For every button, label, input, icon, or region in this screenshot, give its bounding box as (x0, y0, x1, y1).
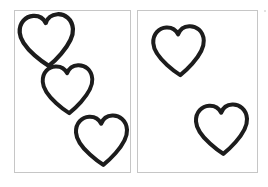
heart-outline (19, 13, 76, 68)
figure-canvas (0, 0, 268, 187)
heart-outline (42, 65, 94, 115)
heart-outline (195, 104, 249, 155)
heart-outline (75, 115, 129, 166)
edge-speck (264, 10, 266, 12)
heart-outline (152, 26, 205, 77)
heart-middle (38, 62, 99, 118)
heart-upper-left (149, 23, 210, 80)
heart-bottom-right (72, 112, 133, 170)
heart-lower-right (192, 101, 253, 159)
